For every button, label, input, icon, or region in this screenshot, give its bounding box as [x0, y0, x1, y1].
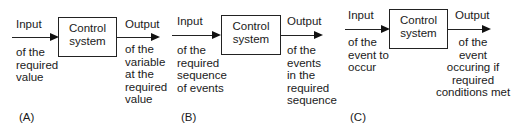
arrowhead-icon — [314, 31, 323, 39]
input-arrow-line — [12, 37, 52, 38]
input-description: of the required value — [16, 46, 58, 84]
diagram-label: (C) — [350, 111, 366, 124]
control-system-label: Control system — [69, 22, 106, 48]
output-label: Output — [455, 9, 490, 22]
output-description: of the event occuring if required condit… — [428, 36, 518, 99]
arrowhead-icon — [482, 25, 491, 33]
arrowhead-icon — [212, 31, 221, 39]
diagram-label: (B) — [181, 111, 196, 124]
input-arrow-line — [172, 35, 214, 36]
input-label: Input — [177, 15, 203, 28]
input-label: Input — [348, 9, 374, 22]
output-arrow-line — [448, 29, 484, 30]
output-label: Output — [287, 15, 322, 28]
output-description: of the variable at the required value — [125, 43, 167, 106]
input-description: of the required sequence of events — [177, 44, 227, 94]
output-description: of the events in the required sequence — [287, 44, 337, 107]
control-system-box: Control system — [221, 15, 281, 55]
input-arrow-line — [345, 29, 383, 30]
output-label: Output — [125, 18, 160, 31]
arrowhead-icon — [151, 33, 160, 41]
input-label: Input — [16, 18, 42, 31]
output-arrow-line — [281, 35, 316, 36]
control-system-box: Control system — [58, 17, 117, 57]
output-arrow-line — [117, 37, 153, 38]
diagram-label: (A) — [19, 111, 34, 124]
input-description: of the event to occur — [348, 36, 389, 74]
control-system-label: Control system — [232, 20, 269, 46]
